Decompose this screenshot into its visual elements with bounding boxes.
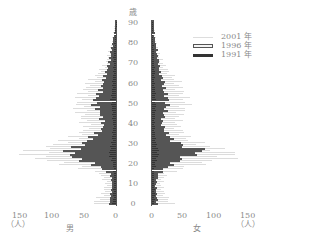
bar-female-1991-age-1 — [152, 201, 154, 202]
bar-female-1991-age-29 — [152, 144, 157, 145]
bar-male-1991-age-12 — [114, 179, 116, 180]
bar-male-1991-age-40 — [113, 122, 116, 123]
x-tick-left-0: 0 — [113, 212, 118, 220]
legend-label-2001: 2001 年 — [221, 33, 252, 41]
bar-female-1991-age-21 — [152, 160, 157, 161]
age-tick-70: 70 — [123, 59, 143, 67]
age-tick-90: 90 — [123, 19, 143, 27]
bar-female-1991-age-23 — [152, 156, 158, 157]
bar-male-1991-age-38 — [114, 126, 116, 127]
x-tick-right-150: 150 — [240, 212, 255, 220]
legend-swatch-1996 — [193, 44, 213, 48]
bar-male-1991-age-31 — [113, 140, 116, 141]
bar-female-1991-age-19 — [152, 164, 155, 165]
bar-female-1991-age-26 — [152, 150, 159, 151]
x-tick-right-50: 50 — [177, 212, 187, 220]
legend-swatch-1991 — [193, 54, 213, 57]
bar-female-1991-age-67 — [152, 67, 155, 68]
bar-female-1991-age-20 — [152, 162, 155, 163]
bar-female-1991-age-43 — [152, 116, 155, 117]
bar-male-1991-age-8 — [114, 187, 116, 188]
bar-female-1991-age-76 — [152, 49, 154, 50]
male-axis-line — [116, 20, 117, 206]
bar-male-1991-age-2 — [113, 199, 116, 200]
bar-female-1991-age-28 — [152, 146, 156, 147]
bar-female-1991-age-42 — [152, 118, 155, 119]
bar-female-1991-age-78 — [152, 45, 154, 46]
bar-male-1991-age-29 — [112, 144, 116, 145]
bar-female-1991-age-22 — [152, 158, 156, 159]
bar-female-1991-age-74 — [152, 53, 154, 54]
bar-female-1991-age-3 — [152, 197, 154, 198]
legend-label-1996: 1996 年 — [221, 42, 252, 50]
bar-male-1991-age-71 — [114, 59, 116, 60]
bar-male-1991-age-5 — [113, 193, 116, 194]
bar-female-1991-age-38 — [152, 126, 155, 127]
bar-female-1991-age-63 — [152, 75, 154, 76]
bar-female-1991-age-32 — [152, 138, 156, 139]
bar-female-1991-age-25 — [152, 152, 157, 153]
bar-female-1996-age-26 — [152, 150, 202, 152]
bar-male-1991-age-79 — [114, 43, 116, 44]
bar-female-1991-age-24 — [152, 154, 159, 155]
bar-male-1991-age-57 — [113, 87, 116, 88]
bar-male-1991-age-51 — [110, 99, 116, 100]
bar-male-1991-age-19 — [113, 164, 116, 165]
bar-female-1991-age-53 — [152, 95, 155, 96]
bar-male-1991-age-0 — [112, 203, 116, 204]
bar-male-1991-age-3 — [114, 197, 116, 198]
bar-female-1991-age-47 — [152, 108, 155, 109]
bar-male-1991-age-39 — [113, 124, 116, 125]
bar-male-1991-age-33 — [112, 136, 116, 137]
bar-male-1991-age-48 — [112, 106, 116, 107]
bar-female-1991-age-33 — [152, 136, 155, 137]
age-tick-20: 20 — [123, 160, 143, 168]
bar-female-1991-age-0 — [152, 203, 154, 204]
bar-male-1991-age-10 — [114, 183, 116, 184]
bar-female-1991-age-61 — [152, 79, 154, 80]
bar-male-1991-age-58 — [112, 85, 116, 86]
bar-female-1991-age-85 — [152, 30, 153, 31]
bar-female-1991-age-8 — [152, 187, 154, 188]
bar-female-1991-age-86 — [152, 28, 153, 29]
bar-female-1991-age-84 — [152, 32, 153, 33]
bar-female-1991-age-2 — [152, 199, 155, 200]
bar-female-1991-age-62 — [152, 77, 155, 78]
bar-male-1991-age-74 — [114, 53, 116, 54]
bar-male-1991-age-46 — [112, 110, 116, 111]
bar-female-1991-age-9 — [152, 185, 154, 186]
bar-male-1991-age-61 — [113, 79, 116, 80]
bar-male-1991-age-42 — [112, 118, 116, 119]
bar-female-1991-age-46 — [152, 110, 156, 111]
bar-male-1991-age-36 — [113, 130, 116, 131]
bar-male-1991-age-27 — [111, 148, 116, 149]
bar-male-1991-age-52 — [112, 97, 116, 98]
bar-male-1991-age-56 — [112, 89, 116, 90]
bar-female-1991-age-41 — [152, 120, 154, 121]
bar-male-1991-age-81 — [115, 39, 116, 40]
bar-male-1991-age-44 — [112, 114, 116, 115]
bar-male-1991-age-76 — [114, 49, 116, 50]
age-tick-80: 80 — [123, 39, 143, 47]
bar-male-1991-age-68 — [114, 65, 116, 66]
bar-female-1991-age-75 — [152, 51, 154, 52]
bar-female-1991-age-12 — [152, 179, 154, 180]
bar-female-1996-age-89 — [152, 22, 154, 24]
bar-male-1991-age-84 — [115, 32, 116, 33]
bar-male-1991-age-20 — [113, 162, 116, 163]
bar-male-1991-age-9 — [114, 185, 116, 186]
legend-label-1991: 1991 年 — [221, 51, 252, 59]
male-label: 男 — [66, 225, 74, 233]
bar-female-1991-age-40 — [152, 122, 155, 123]
bar-female-1991-age-77 — [152, 47, 153, 48]
bar-male-1991-age-45 — [113, 112, 116, 113]
bar-female-1991-age-37 — [152, 128, 155, 129]
bar-female-1991-age-58 — [152, 85, 154, 86]
bar-female-1991-age-73 — [152, 55, 154, 56]
bar-female-1996-age-27 — [152, 148, 205, 150]
bar-female-1991-age-16 — [152, 171, 154, 172]
bar-male-1991-age-17 — [114, 168, 116, 169]
bar-male-1991-age-66 — [114, 69, 116, 70]
bar-male-1991-age-67 — [113, 67, 116, 68]
bar-male-1991-age-11 — [114, 181, 116, 182]
